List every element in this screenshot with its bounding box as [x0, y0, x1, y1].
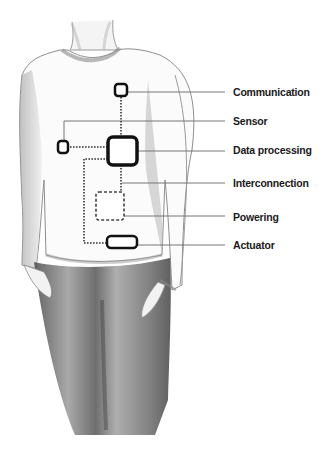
label-communication: Communication	[233, 86, 310, 98]
data-processing-box	[108, 137, 137, 165]
powering-box	[96, 192, 124, 220]
actuator-box	[107, 236, 137, 248]
sensor-box	[58, 141, 68, 153]
garment-sketch	[0, 0, 335, 451]
shirt-sketch	[20, 48, 194, 290]
label-interconnection: Interconnection	[233, 177, 309, 189]
label-data-processing: Data processing	[233, 144, 312, 156]
communication-box	[115, 84, 127, 96]
label-actuator: Actuator	[233, 239, 275, 251]
neck-sketch	[70, 20, 118, 50]
label-powering: Powering	[233, 211, 279, 223]
pants-sketch	[34, 258, 171, 435]
label-sensor: Sensor	[233, 115, 267, 127]
